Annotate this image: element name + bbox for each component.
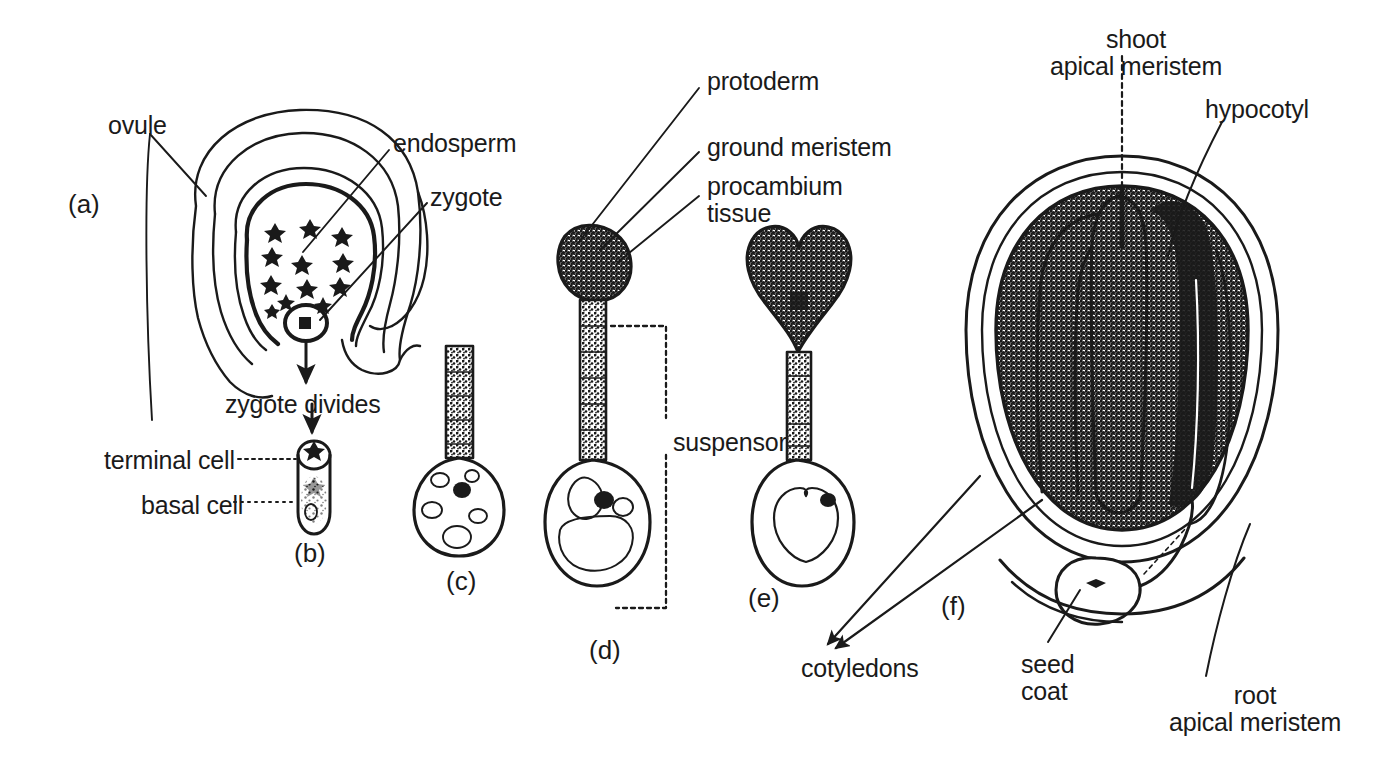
label-terminal-cell: terminal cell [104, 447, 235, 474]
leader-root-apical-meristem [1206, 524, 1250, 676]
diagram-artwork [0, 0, 1383, 762]
endosperm-nuclei [260, 219, 354, 319]
leader-endosperm [303, 150, 389, 252]
label-cotyledons: cotyledons [801, 655, 919, 682]
leader-ovule [150, 134, 206, 196]
stage-label-c: (c) [446, 567, 476, 595]
label-suspensor: suspensor [673, 429, 787, 456]
leader-seed-coat [1048, 590, 1080, 642]
label-procambium-tissue: procambium tissue [707, 173, 907, 227]
leader-protoderm [578, 88, 699, 243]
stage-label-b: (b) [294, 539, 326, 567]
stage-label-d: (d) [589, 636, 621, 664]
label-shoot-apical-meristem: shoot apical meristem [1042, 26, 1230, 80]
label-endosperm: endosperm [393, 130, 516, 157]
stage-label-a: (a) [68, 190, 100, 218]
label-protoderm: protoderm [707, 68, 819, 95]
stage-label-f: (f) [941, 592, 966, 620]
label-ovule: ovule [108, 112, 167, 139]
leader-procambium [618, 196, 699, 262]
two-celled-embryo [298, 404, 330, 534]
leader-cotyledons-right [836, 500, 1042, 648]
heart-stage-embryo [747, 226, 854, 586]
suspensor-bracket [611, 326, 666, 608]
leader-zygote [320, 203, 427, 320]
label-seed-coat: seed coat [1021, 651, 1074, 705]
globular-embryo [414, 346, 504, 556]
label-basal-cell: basal cell [141, 492, 243, 519]
leader-hypocotyl [1168, 122, 1222, 256]
zygote-cell [285, 305, 327, 341]
mature-seed [966, 156, 1278, 624]
label-zygote: zygote [430, 184, 502, 211]
label-hypocotyl: hypocotyl [1205, 96, 1309, 123]
embryo-development-figure: ovule endosperm zygote zygote divides te… [0, 0, 1383, 762]
leader-ground-meristem [600, 152, 699, 250]
label-root-apical-meristem: root apical meristem [1150, 682, 1360, 736]
stage-label-e: (e) [748, 584, 780, 612]
early-heart-embryo [545, 225, 650, 586]
label-zygote-divides: zygote divides [225, 391, 381, 418]
label-ground-meristem: ground meristem [707, 134, 892, 161]
